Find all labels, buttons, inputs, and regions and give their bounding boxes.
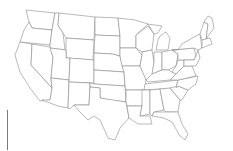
state-ia [120,48,142,66]
state-sd [94,35,120,56]
state-nd [95,17,120,36]
vertical-scale-line [7,110,8,150]
state-wy [66,38,94,60]
state-boundaries [15,10,214,140]
state-ny [172,34,202,50]
state-co [69,58,94,83]
state-ma-ct-ri [202,38,212,48]
state-ne [94,53,124,72]
state-ks [94,70,125,86]
state-fl [152,112,188,140]
us-map [0,0,233,151]
